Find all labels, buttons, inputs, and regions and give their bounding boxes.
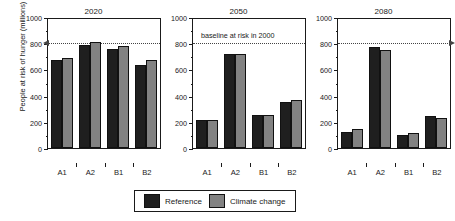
y-tick-label: 200 xyxy=(320,119,332,126)
y-tick-label: 400 xyxy=(320,93,332,100)
legend-label: Reference xyxy=(165,197,202,206)
x-axis: A1A2B1B2 xyxy=(193,163,306,181)
x-tick-label-B1: B1 xyxy=(249,168,279,177)
y-tick-label: 600 xyxy=(30,67,42,74)
bar xyxy=(436,118,447,148)
bar xyxy=(90,42,101,148)
plot-area: baseline at risk in 2000 xyxy=(193,18,306,149)
x-tick xyxy=(105,163,106,167)
bar xyxy=(224,54,235,148)
y-tick-label: 200 xyxy=(175,119,187,126)
y-tick-label: 600 xyxy=(320,67,332,74)
bar-group-A1 xyxy=(48,19,76,148)
legend-swatch xyxy=(144,194,160,208)
bar-group-B1 xyxy=(394,19,422,148)
plot-area xyxy=(338,18,451,149)
plot-wrapper: 02004006008001000 xyxy=(26,18,161,163)
legend-label: Climate change xyxy=(230,197,286,206)
bar-group-A1 xyxy=(193,19,221,148)
x-tick-label-A2: A2 xyxy=(75,168,105,177)
x-axis: A1A2B1B2 xyxy=(338,163,451,181)
x-tick-label-B2: B2 xyxy=(422,168,452,177)
panel-title: 2080 xyxy=(316,6,451,18)
bar xyxy=(352,129,363,148)
bar xyxy=(135,65,146,148)
x-tick xyxy=(423,163,424,167)
x-tick xyxy=(250,163,251,167)
bar xyxy=(291,100,302,148)
panel-2080: 208002004006008001000A1A2B1B2 xyxy=(316,6,451,181)
bar xyxy=(263,115,274,148)
y-tick xyxy=(44,149,48,150)
bar xyxy=(79,45,90,148)
bar-group-A1 xyxy=(338,19,366,148)
x-tick xyxy=(395,163,396,167)
y-axis: 02004006008001000 xyxy=(316,18,338,149)
bar xyxy=(51,60,62,148)
y-tick-label: 400 xyxy=(30,93,42,100)
bar xyxy=(280,102,291,149)
plot-wrapper: 02004006008001000baseline at risk in 200… xyxy=(171,18,306,163)
x-tick-label-A1: A1 xyxy=(337,168,367,177)
bar xyxy=(196,120,207,148)
y-tick-label: 0 xyxy=(38,146,42,153)
bar-group-B1 xyxy=(249,19,277,148)
x-tick xyxy=(366,163,367,167)
y-tick-label: 1000 xyxy=(26,15,42,22)
x-tick-label-A1: A1 xyxy=(47,168,77,177)
plot-wrapper: 02004006008001000 xyxy=(316,18,451,163)
legend-swatch xyxy=(209,194,225,208)
bar-group-A2 xyxy=(366,19,394,148)
y-tick-label: 800 xyxy=(320,41,332,48)
y-tick-label: 800 xyxy=(30,41,42,48)
bar xyxy=(408,133,419,148)
bar xyxy=(369,47,380,148)
bar xyxy=(118,46,129,148)
y-tick-label: 600 xyxy=(175,67,187,74)
y-tick-label: 200 xyxy=(30,119,42,126)
y-tick xyxy=(334,149,338,150)
panel-2050: 205002004006008001000baseline at risk in… xyxy=(171,6,306,181)
panel-title: 2020 xyxy=(26,6,161,18)
y-tick-label: 800 xyxy=(175,41,187,48)
bar-group-B1 xyxy=(104,19,132,148)
bar-group-B2 xyxy=(277,19,305,148)
y-tick-label: 400 xyxy=(175,93,187,100)
bar xyxy=(341,132,352,148)
y-axis: 02004006008001000 xyxy=(171,18,193,149)
x-tick-label-B1: B1 xyxy=(394,168,424,177)
x-tick-label-B1: B1 xyxy=(104,168,134,177)
y-tick-label: 0 xyxy=(328,146,332,153)
legend-item-reference: Reference xyxy=(144,194,202,208)
bar xyxy=(252,115,263,148)
x-tick-label-B2: B2 xyxy=(132,168,162,177)
bar-groups xyxy=(193,19,305,148)
legend-item-climate-change: Climate change xyxy=(209,194,286,208)
bar xyxy=(397,135,408,148)
x-tick xyxy=(278,163,279,167)
bar-group-B2 xyxy=(132,19,160,148)
y-tick-label: 1000 xyxy=(316,15,332,22)
bar xyxy=(146,60,157,148)
y-tick-label: 0 xyxy=(183,146,187,153)
bar xyxy=(107,49,118,148)
bar xyxy=(207,120,218,148)
x-tick xyxy=(76,163,77,167)
x-tick-label-A2: A2 xyxy=(365,168,395,177)
x-tick-label-A1: A1 xyxy=(192,168,222,177)
panel-container: 202002004006008001000A1A2B1B220500200400… xyxy=(26,6,451,181)
bar xyxy=(235,54,246,148)
y-axis: 02004006008001000 xyxy=(26,18,48,149)
panel-2020: 202002004006008001000A1A2B1B2 xyxy=(26,6,161,181)
bar xyxy=(425,116,436,148)
plot-area xyxy=(48,18,161,149)
y-tick-label: 1000 xyxy=(171,15,187,22)
bar xyxy=(62,58,73,148)
y-tick xyxy=(189,149,193,150)
x-axis: A1A2B1B2 xyxy=(48,163,161,181)
x-tick-label-B2: B2 xyxy=(277,168,307,177)
bar-groups xyxy=(48,19,160,148)
bar-groups xyxy=(338,19,450,148)
chart-legend: ReferenceClimate change xyxy=(134,190,296,212)
